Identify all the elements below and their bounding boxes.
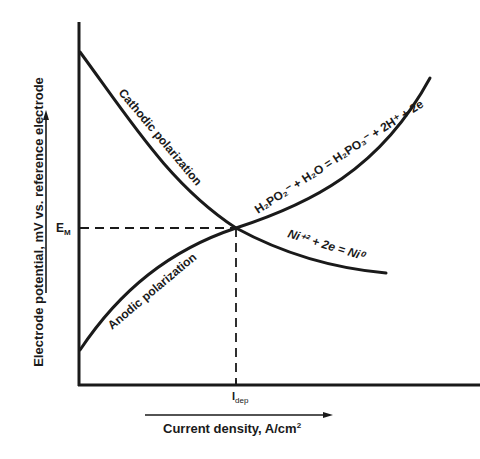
x-axis-arrow (145, 412, 333, 418)
cathodic-label: Cathodic polarization (116, 86, 205, 188)
x-axis-title-text: Current density, A/cm (163, 421, 297, 436)
x-axis-title: Current density, A/cm2 (163, 421, 301, 436)
oxidation-reaction-label: H₂PO₂⁻ + H₂O = H₂PO₃⁻ + 2H⁺ + 2e (252, 97, 426, 217)
y-axis-title: Electrode potential, mV vs. reference el… (31, 77, 46, 367)
idep-sub: dep (235, 396, 248, 405)
idep-marker-label: Idep (232, 390, 248, 405)
em-sub: M (64, 228, 71, 237)
em-marker-label: EM (56, 221, 71, 237)
x-axis-title-exponent: 2 (297, 421, 301, 430)
reduction-reaction-label: Ni⁺² + 2e = Ni⁰ (286, 226, 368, 263)
em-main: E (56, 221, 64, 235)
anodic-label: Anodic polarization (105, 250, 199, 332)
